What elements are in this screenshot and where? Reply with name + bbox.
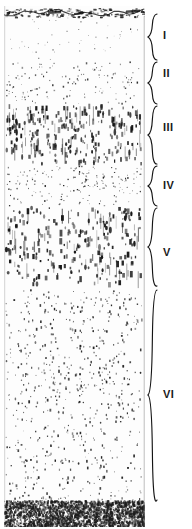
bracket-IV bbox=[148, 166, 157, 206]
cell-bodies bbox=[5, 14, 143, 500]
white-matter-band bbox=[4, 500, 145, 527]
bracket-III bbox=[148, 106, 157, 164]
bracket-VI bbox=[148, 290, 157, 501]
layer-label-I: I bbox=[163, 30, 166, 41]
bracket-I bbox=[148, 14, 157, 60]
layer-label-IV: IV bbox=[163, 180, 174, 191]
layer-label-VI: VI bbox=[163, 389, 174, 400]
layer-bracket-annotations: I II III IV V VI bbox=[145, 0, 192, 529]
bracket-curves bbox=[145, 0, 192, 529]
bracket-II bbox=[148, 62, 157, 104]
cortical-layers-figure: I II III IV V VI bbox=[0, 0, 192, 529]
tissue-micrograph bbox=[4, 6, 145, 527]
layer-label-II: II bbox=[163, 68, 170, 79]
layer-label-V: V bbox=[163, 247, 171, 258]
layer-label-III: III bbox=[163, 122, 173, 133]
bracket-paths bbox=[148, 14, 157, 501]
bracket-V bbox=[148, 208, 157, 286]
tissue-rendering bbox=[4, 6, 145, 527]
pial-surface bbox=[4, 8, 145, 19]
